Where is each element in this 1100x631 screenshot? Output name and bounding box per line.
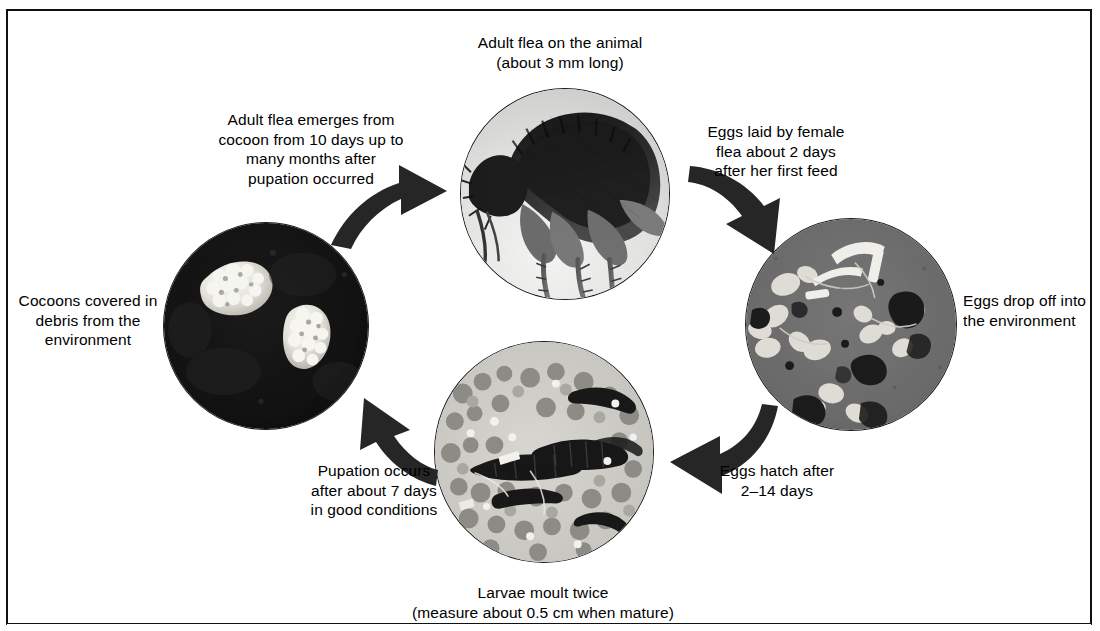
figure-border-bottom-gap bbox=[7, 624, 1091, 631]
label-eggs-drop: Eggs drop off into the environment bbox=[963, 291, 1100, 330]
flea-life-cycle-figure: Adult flea on the animal (about 3 mm lon… bbox=[0, 0, 1100, 631]
label-pupation: Pupation occurs after about 7 days in go… bbox=[272, 461, 476, 520]
label-adult-flea: Adult flea on the animal (about 3 mm lon… bbox=[417, 33, 703, 72]
label-eggs-laid: Eggs laid by female flea about 2 days af… bbox=[660, 122, 892, 181]
label-larvae-moult: Larvae moult twice (measure about 0.5 cm… bbox=[378, 583, 708, 622]
label-adult-emerges: Adult flea emerges from cocoon from 10 d… bbox=[180, 110, 442, 188]
label-cocoons: Cocoons covered in debris from the envir… bbox=[8, 291, 168, 350]
flea-larvae-photo bbox=[434, 341, 654, 563]
adult-flea-photo bbox=[460, 88, 670, 300]
label-eggs-hatch: Eggs hatch after 2–14 days bbox=[692, 461, 862, 500]
